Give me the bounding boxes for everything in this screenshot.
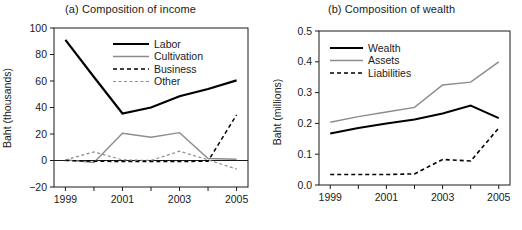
x-tick-label-a-4: 2003	[168, 193, 192, 205]
y-tick-label-a-0: −20	[29, 181, 47, 193]
legend-label-business: Business	[154, 63, 197, 75]
series-line-cultivation	[65, 133, 236, 163]
x-tick-label-b-0: 1999	[319, 191, 343, 203]
panel-b-plot: 0.00.10.20.30.40.51999200120032005Baht (…	[261, 0, 522, 230]
y-tick-label-a-3: 40	[35, 101, 47, 113]
x-tick-label-a-2: 2001	[111, 193, 135, 205]
y-tick-label-b-1: 0.1	[297, 148, 312, 160]
legend-label-labor: Labor	[154, 38, 181, 50]
y-tick-label-b-3: 0.3	[297, 86, 312, 98]
y-tick-label-a-2: 20	[35, 128, 47, 140]
y-tick-label-b-4: 0.4	[297, 55, 312, 67]
y-tick-label-a-6: 100	[29, 22, 47, 34]
y-axis-title-b: Baht (millions)	[271, 79, 283, 146]
x-tick-label-b-6: 2005	[487, 191, 511, 203]
y-tick-label-a-4: 60	[35, 75, 47, 87]
x-tick-label-a-0: 1999	[54, 193, 78, 205]
legend-label-other: Other	[154, 75, 181, 87]
x-tick-label-b-4: 2003	[431, 191, 455, 203]
y-tick-label-a-1: 0	[41, 154, 47, 166]
panel-b-composition-of-wealth: (b) Composition of wealth 0.00.10.20.30.…	[261, 0, 522, 230]
figure-two-panel-line-charts: (a) Composition of income −2002040608010…	[0, 0, 522, 230]
series-line-wealth	[330, 106, 499, 134]
y-axis-title-a: Baht (thousands)	[1, 68, 13, 148]
series-line-liabilities	[330, 128, 499, 175]
x-tick-label-b-2: 2001	[375, 191, 399, 203]
panel-a-plot: −200204060801001999200120032005Baht (tho…	[0, 0, 261, 230]
series-line-labor	[65, 40, 236, 114]
series-line-assets	[330, 62, 499, 122]
y-tick-label-b-5: 0.5	[297, 25, 312, 37]
legend-label-assets: Assets	[368, 54, 400, 66]
series-line-business	[65, 115, 236, 162]
legend-label-wealth: Wealth	[368, 42, 401, 54]
legend-label-cultivation: Cultivation	[154, 50, 203, 62]
y-tick-label-a-5: 80	[35, 48, 47, 60]
legend-label-liabilities: Liabilities	[368, 67, 411, 79]
y-tick-label-b-2: 0.2	[297, 117, 312, 129]
panel-a-composition-of-income: (a) Composition of income −2002040608010…	[0, 0, 261, 230]
x-tick-label-a-6: 2005	[225, 193, 249, 205]
y-tick-label-b-0: 0.0	[297, 179, 312, 191]
